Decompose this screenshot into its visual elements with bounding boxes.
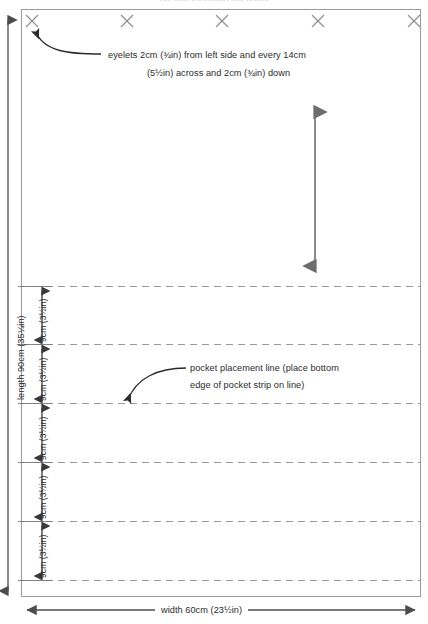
fabric-rectangle — [22, 10, 421, 597]
length-dimension-label: length 90cm (35¼in) — [15, 315, 27, 400]
diagram-vector-layer — [0, 0, 428, 624]
eyelet-callout-line1: eyelets 2cm (¾in) from left side and eve… — [108, 49, 306, 61]
segment-label: 9cm (3½in) — [37, 535, 49, 578]
eyelet-callout-line2: (5½in) across and 2cm (¾in) down — [147, 67, 290, 79]
diagram-canvas: cut one rectangle per panel — [0, 0, 428, 624]
segment-label: 9cm (3½in) — [37, 358, 49, 401]
segment-label: 9cm (3½in) — [37, 476, 49, 519]
width-dimension-label: width 60cm (23½in) — [155, 604, 248, 616]
segment-label: 9cm (3½in) — [37, 417, 49, 460]
pocket-callout-line2: edge of pocket strip on line) — [190, 379, 304, 391]
pocket-callout-line1: pocket placement line (place bottom — [190, 362, 339, 374]
segment-label: 9cm (3½in) — [37, 299, 49, 342]
